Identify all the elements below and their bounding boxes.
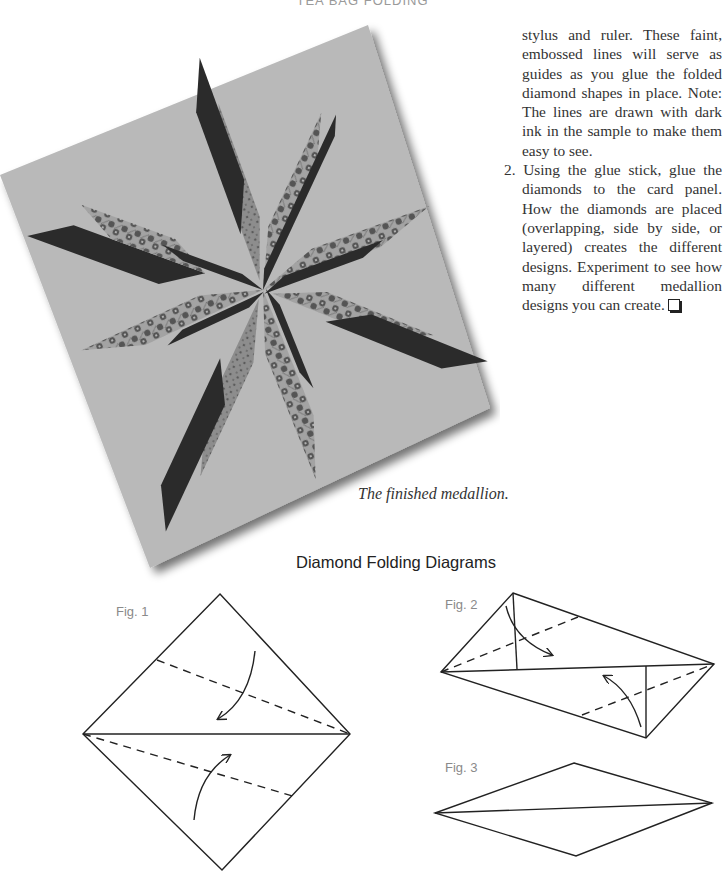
section-title: Diamond Folding Diagrams <box>296 553 496 572</box>
paragraph-continuation: stylus and ruler. These faint, embossed … <box>504 25 722 160</box>
fig-1-diagram <box>83 594 350 870</box>
fig-2-diagram <box>441 593 714 738</box>
fig-2-label: Fig. 2 <box>445 597 478 612</box>
fig-1-label: Fig. 1 <box>116 604 149 619</box>
ballot-box-icon <box>668 299 680 311</box>
step-2-text: 2. Using the glue stick, glue the diamon… <box>504 161 722 313</box>
instructions-text: stylus and ruler. These faint, embossed … <box>504 25 722 314</box>
fig-3-label: Fig. 3 <box>445 760 478 775</box>
fig-3-diagram <box>435 763 712 856</box>
photo-caption: The finished medallion. <box>358 485 509 503</box>
